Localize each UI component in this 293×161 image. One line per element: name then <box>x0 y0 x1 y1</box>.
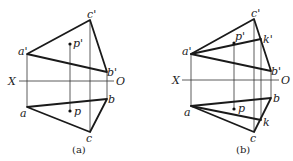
label-a-prime: a' <box>18 45 28 58</box>
top-view-triangle <box>27 99 107 132</box>
label-k-prime: k' <box>263 33 273 46</box>
label-b: b <box>108 93 115 106</box>
label-p: p <box>238 102 245 115</box>
axis-o-label: O <box>116 75 125 88</box>
label-p: p <box>74 105 81 118</box>
label-p-prime: p' <box>235 30 245 43</box>
auxiliary-line-a-prime-k-prime <box>191 39 261 54</box>
point-p <box>232 107 235 110</box>
panel-a: X O c' a' b' p' a b c p (a) <box>7 8 125 155</box>
axis-x-label: X <box>7 75 17 88</box>
projection-diagram: X O c' a' b' p' a b c p (a) X O <box>0 0 293 161</box>
label-a: a <box>184 106 191 119</box>
label-a-prime: a' <box>182 45 192 58</box>
label-a: a <box>20 107 27 120</box>
axis-o-label: O <box>281 74 290 87</box>
point-p-prime <box>68 42 71 45</box>
front-view-triangle <box>27 20 107 72</box>
axis-x-label: X <box>171 74 181 87</box>
label-k: k <box>263 116 270 129</box>
caption-a: (a) <box>72 144 86 155</box>
label-b-prime: b' <box>271 65 281 78</box>
label-c: c <box>86 132 92 145</box>
caption-b: (b) <box>236 144 250 155</box>
point-p <box>68 109 71 112</box>
label-p-prime: p' <box>73 37 83 50</box>
auxiliary-line-a-k <box>191 106 261 120</box>
label-b: b <box>273 92 280 105</box>
label-c-prime: c' <box>251 7 260 20</box>
label-c: c <box>250 132 256 145</box>
label-b-prime: b' <box>107 66 117 79</box>
label-c-prime: c' <box>87 8 96 21</box>
top-view-triangle <box>191 98 271 132</box>
panel-b: X O c' a' k' p' b' a b c k p (b) <box>171 7 290 155</box>
